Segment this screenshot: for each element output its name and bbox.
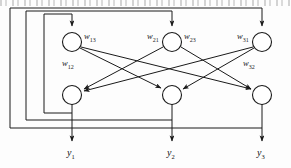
weight-label-w21: w21 (147, 32, 159, 43)
node-bottom-2 (163, 86, 182, 105)
node-top-2 (163, 33, 182, 52)
edge-n2-m3 (181, 47, 251, 89)
outer-loop-y3 (10, 8, 262, 128)
weight-label-w31: w31 (237, 32, 249, 43)
network-graphic (0, 0, 291, 168)
node-bottom-3 (253, 86, 272, 105)
output-label-y1: y1 (67, 148, 75, 161)
middle-loop-y2 (26, 11, 172, 120)
edge-n1-m3 (81, 47, 251, 89)
node-top-1 (63, 33, 82, 52)
node-top-3 (253, 33, 272, 52)
diagram-root: w13 w21 w23 w31 w12 w32 y1 y2 y3 (0, 0, 291, 168)
output-label-y2: y2 (167, 148, 175, 161)
weight-label-w32: w32 (243, 59, 255, 70)
output-label-y3: y3 (257, 148, 265, 161)
cross-connection-group (80, 47, 254, 91)
weight-label-w13: w13 (84, 32, 96, 43)
output-arrow-group (72, 104, 262, 141)
weight-label-w12: w12 (62, 59, 74, 70)
node-bottom-1 (63, 86, 82, 105)
feedback-loop-group (10, 8, 262, 128)
weight-label-w23: w23 (184, 32, 196, 43)
